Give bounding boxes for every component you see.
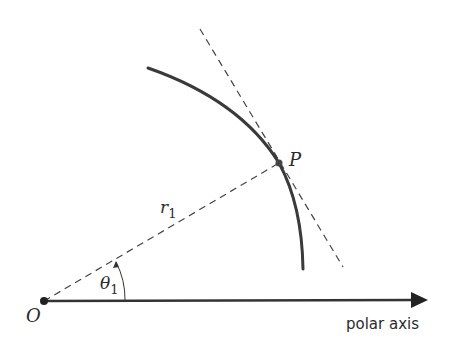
angle-label: θ1: [100, 273, 119, 297]
polar-diagram: O P r1 θ1 polar axis: [0, 0, 451, 354]
polar-axis-line: [44, 300, 415, 301]
curve: [148, 68, 303, 269]
axis-label: polar axis: [346, 315, 419, 333]
radius-line: [44, 163, 279, 301]
point-p: [276, 160, 283, 167]
radius-label: r1: [160, 197, 176, 221]
origin-point: [40, 297, 48, 305]
tangent-line: [200, 29, 343, 267]
axis-arrow-icon: [411, 292, 428, 308]
angle-arrow-icon: [113, 261, 119, 268]
origin-label: O: [26, 305, 41, 326]
point-label: P: [288, 149, 302, 170]
